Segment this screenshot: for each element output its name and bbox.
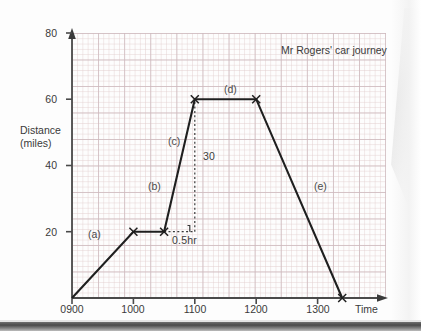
- y-tick-label-40: 40: [33, 159, 57, 171]
- data-point-markers: [129, 95, 346, 302]
- segment-label-d: (d): [224, 83, 237, 95]
- y-axis-title-line1: Distance: [20, 124, 61, 136]
- run-annotation: 0.5hr: [172, 234, 197, 246]
- y-tick-label-20: 20: [33, 226, 57, 238]
- worksheet-scan: 80 60 40 20 0900 1000 1100 1200 1300 Dis…: [0, 0, 421, 331]
- x-tick-label-1000: 1000: [113, 303, 153, 315]
- right-angle-icon: [188, 226, 190, 232]
- x-tick-label-1200: 1200: [236, 303, 276, 315]
- scan-bottom-band: [0, 322, 421, 331]
- x-tick-label-1300: 1300: [298, 303, 338, 315]
- journey-line: [72, 99, 342, 298]
- chart-title: Mr Rogers' car journey: [281, 44, 387, 56]
- y-tick-label-80: 80: [33, 27, 57, 39]
- segment-label-c: (c): [168, 135, 180, 147]
- x-tick-label-0900: 0900: [52, 303, 92, 315]
- segment-label-b: (b): [148, 180, 161, 192]
- segment-label-e: (e): [314, 180, 327, 192]
- y-tick-label-60: 60: [33, 93, 57, 105]
- axes: [66, 28, 388, 304]
- rise-annotation: 30: [203, 150, 215, 162]
- y-axis-title-line2: (miles): [20, 137, 52, 149]
- page-edge-artifact: [391, 0, 421, 331]
- x-axis-arrow: [377, 294, 388, 302]
- x-axis-title: Time: [355, 303, 378, 315]
- x-tick-label-1100: 1100: [175, 303, 215, 315]
- segment-label-a: (a): [88, 228, 101, 240]
